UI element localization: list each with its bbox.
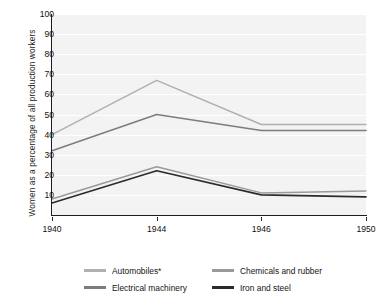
- series-line: [52, 80, 366, 134]
- y-axis-tick-label: 50: [14, 110, 54, 119]
- y-axis-tick-label: 60: [14, 90, 54, 99]
- x-axis-tick-mark: [261, 217, 262, 221]
- y-axis-tick-label: 10: [14, 191, 54, 200]
- legend-label: Chemicals and rubber: [240, 266, 322, 276]
- legend-swatch-icon: [84, 269, 106, 272]
- legend-swatch-icon: [212, 286, 234, 289]
- legend-item-automobiles[interactable]: Automobiles*: [84, 266, 212, 276]
- x-axis-line: [51, 215, 367, 216]
- x-axis-tick-mark: [366, 217, 367, 221]
- series-line: [52, 171, 366, 203]
- y-axis-tick-label: 70: [14, 70, 54, 79]
- x-axis-tick-label: 1940: [42, 224, 61, 234]
- x-axis-tick-label: 1944: [147, 224, 166, 234]
- y-axis-title: Women as a percentage of all production …: [27, 13, 37, 233]
- legend-label: Automobiles*: [112, 266, 161, 276]
- y-axis-tick-label: 40: [14, 130, 54, 139]
- series-line: [52, 115, 366, 151]
- y-axis-tick-label: 100: [14, 10, 54, 19]
- x-axis-tick-mark: [52, 217, 53, 221]
- y-axis-tick-label: 90: [14, 30, 54, 39]
- legend-item-iron-and-steel[interactable]: Iron and steel: [212, 283, 376, 293]
- legend: Automobiles* Chemicals and rubber Electr…: [84, 262, 376, 296]
- y-axis-tick-label: 20: [14, 171, 54, 180]
- legend-label: Electrical machinery: [112, 283, 187, 293]
- series-lines: [52, 14, 366, 215]
- x-axis-tick-label: 1946: [252, 224, 271, 234]
- legend-label: Iron and steel: [240, 283, 291, 293]
- y-axis-tick-label: 30: [14, 150, 54, 159]
- legend-swatch-icon: [212, 269, 234, 272]
- plot-area: [52, 14, 366, 215]
- legend-swatch-icon: [84, 286, 106, 289]
- x-axis-tick-mark: [157, 217, 158, 221]
- legend-item-electrical-machinery[interactable]: Electrical machinery: [84, 283, 212, 293]
- x-axis-tick-label: 1950: [356, 224, 375, 234]
- line-chart: Women as a percentage of all production …: [0, 0, 389, 306]
- legend-item-chemicals-and-rubber[interactable]: Chemicals and rubber: [212, 266, 376, 276]
- y-axis-tick-label: 80: [14, 50, 54, 59]
